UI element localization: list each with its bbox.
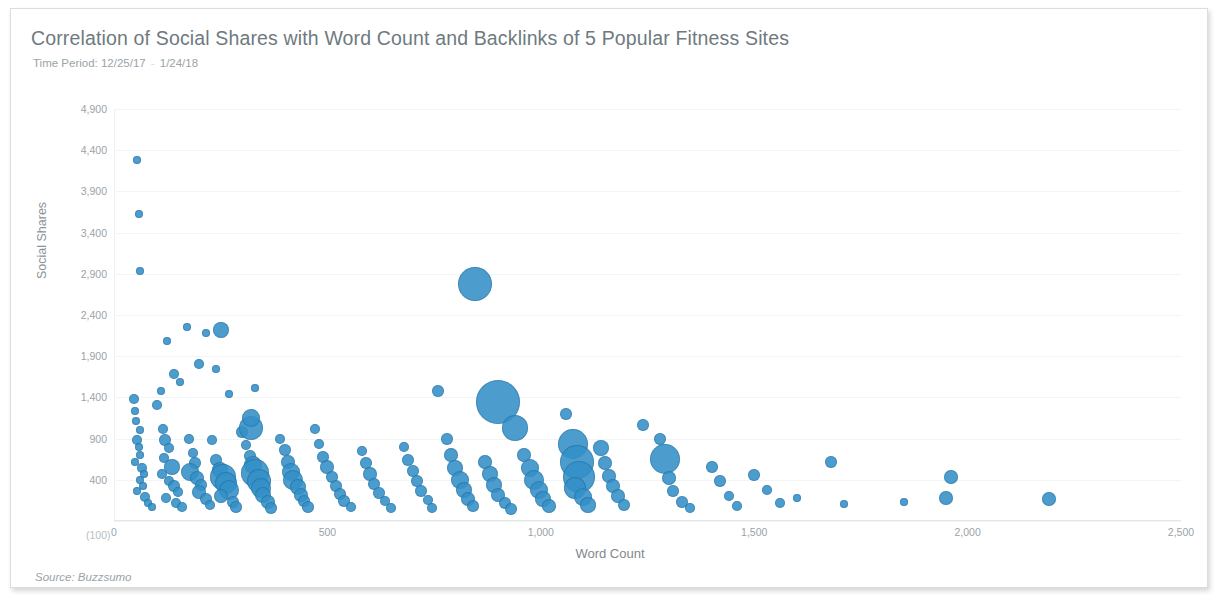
x-axis-tick-label: 1,500 — [741, 526, 767, 538]
bubble-point[interactable] — [176, 378, 184, 386]
bubble-point[interactable] — [427, 503, 437, 513]
chart-card: Correlation of Social Shares with Word C… — [10, 8, 1208, 588]
bubble-point[interactable] — [346, 502, 356, 512]
bubble-point[interactable] — [432, 385, 444, 397]
chart-subtitle: Time Period: 12/25/17-1/24/18 — [33, 57, 198, 69]
bubble-point[interactable] — [793, 494, 801, 502]
bubble-point[interactable] — [1042, 492, 1056, 506]
bubble-point[interactable] — [386, 503, 396, 513]
bubble-point[interactable] — [135, 210, 143, 218]
bubble-point[interactable] — [944, 470, 958, 484]
subtitle-prefix: Time Period: — [33, 57, 98, 69]
bubble-point[interactable] — [265, 502, 277, 514]
bubble-point[interactable] — [214, 489, 228, 503]
bubble-point[interactable] — [136, 267, 144, 275]
subtitle-start-date: 12/25/17 — [101, 57, 146, 69]
y-axis-tick-label: 4,900 — [81, 103, 107, 115]
gridline — [114, 439, 1181, 440]
bubble-point[interactable] — [618, 499, 630, 511]
bubble-point[interactable] — [714, 475, 726, 487]
bubble-point[interactable] — [241, 440, 251, 450]
y-axis-title: Social Shares — [35, 202, 49, 279]
bubble-point[interactable] — [152, 400, 162, 410]
x-axis-tick-label: 2,000 — [954, 526, 980, 538]
bubble-point[interactable] — [467, 500, 479, 512]
bubble-point[interactable] — [302, 501, 314, 513]
bubble-point[interactable] — [131, 407, 139, 415]
bubble-point[interactable] — [840, 500, 848, 508]
bubble-point[interactable] — [161, 493, 171, 503]
bubble-point[interactable] — [136, 426, 144, 434]
y-axis-tick-label: 2,900 — [81, 268, 107, 280]
bubble-point[interactable] — [775, 498, 785, 508]
bubble-point[interactable] — [230, 501, 242, 513]
bubble-point[interactable] — [458, 267, 492, 301]
bubble-point[interactable] — [207, 435, 217, 445]
bubble-point[interactable] — [732, 501, 742, 511]
bubble-point[interactable] — [251, 384, 259, 392]
bubble-point[interactable] — [580, 497, 596, 513]
bubble-point[interactable] — [177, 502, 187, 512]
bubble-point[interactable] — [505, 503, 517, 515]
bubble-point[interactable] — [650, 444, 680, 474]
bubble-point[interactable] — [183, 323, 191, 331]
bubble-point[interactable] — [667, 485, 679, 497]
bubble-point[interactable] — [133, 156, 141, 164]
bubble-point[interactable] — [194, 359, 204, 369]
gridline — [114, 274, 1181, 275]
bubble-point[interactable] — [542, 499, 556, 513]
y-axis-tick-label: 900 — [89, 433, 107, 445]
bubble-point[interactable] — [399, 442, 409, 452]
bubble-point[interactable] — [310, 424, 320, 434]
bubble-point[interactable] — [212, 365, 220, 373]
bubble-point[interactable] — [173, 487, 183, 497]
bubble-point[interactable] — [205, 500, 215, 510]
bubble-point[interactable] — [724, 491, 734, 501]
bubble-point[interactable] — [762, 485, 772, 495]
bubble-point[interactable] — [242, 409, 260, 427]
bubble-point[interactable] — [157, 387, 165, 395]
x-axis-tick-label: 500 — [319, 526, 337, 538]
gridline — [114, 191, 1181, 192]
y-axis-tick-labels: 4009001,4001,9002,4002,9003,4003,9004,40… — [39, 109, 107, 521]
bubble-point[interactable] — [706, 461, 718, 473]
x-axis-title: Word Count — [11, 546, 1209, 561]
bubble-point[interactable] — [158, 424, 168, 434]
bubble-point[interactable] — [164, 443, 174, 453]
bubble-point[interactable] — [357, 446, 367, 456]
gridline — [114, 397, 1181, 398]
x-axis-tick-label: 1,000 — [528, 526, 554, 538]
bubble-point[interactable] — [748, 469, 760, 481]
bubble-point[interactable] — [314, 439, 324, 449]
chart-title: Correlation of Social Shares with Word C… — [31, 27, 789, 50]
bubble-point[interactable] — [213, 322, 229, 338]
bubble-point[interactable] — [163, 337, 171, 345]
gridline — [114, 521, 1181, 522]
bubble-point[interactable] — [637, 419, 649, 431]
y-axis-tick-label: 3,400 — [81, 227, 107, 239]
bubble-point[interactable] — [939, 491, 953, 505]
gridline — [114, 233, 1181, 234]
bubble-point[interactable] — [900, 498, 908, 506]
bubble-point[interactable] — [202, 329, 210, 337]
bubble-point[interactable] — [132, 417, 140, 425]
source-note: Source: Buzzsumo — [35, 571, 132, 583]
bubble-point[interactable] — [560, 408, 572, 420]
bubble-point[interactable] — [225, 390, 233, 398]
x-axis-tick-labels: 05001,0001,5002,0002,500 — [114, 526, 1181, 542]
bubble-point[interactable] — [275, 434, 285, 444]
bubble-point[interactable] — [593, 440, 609, 456]
bubble-point[interactable] — [135, 443, 143, 451]
bubble-point[interactable] — [685, 503, 695, 513]
bubble-point[interactable] — [825, 456, 837, 468]
bubble-point[interactable] — [148, 503, 156, 511]
bubble-point[interactable] — [129, 394, 139, 404]
bubble-point[interactable] — [441, 433, 453, 445]
bubble-point[interactable] — [662, 471, 676, 485]
bubble-point[interactable] — [502, 415, 528, 441]
y-axis-tick-label: 3,900 — [81, 185, 107, 197]
gridline — [114, 315, 1181, 316]
gridline — [114, 150, 1181, 151]
bubble-point[interactable] — [654, 433, 666, 445]
bubble-point[interactable] — [184, 434, 194, 444]
